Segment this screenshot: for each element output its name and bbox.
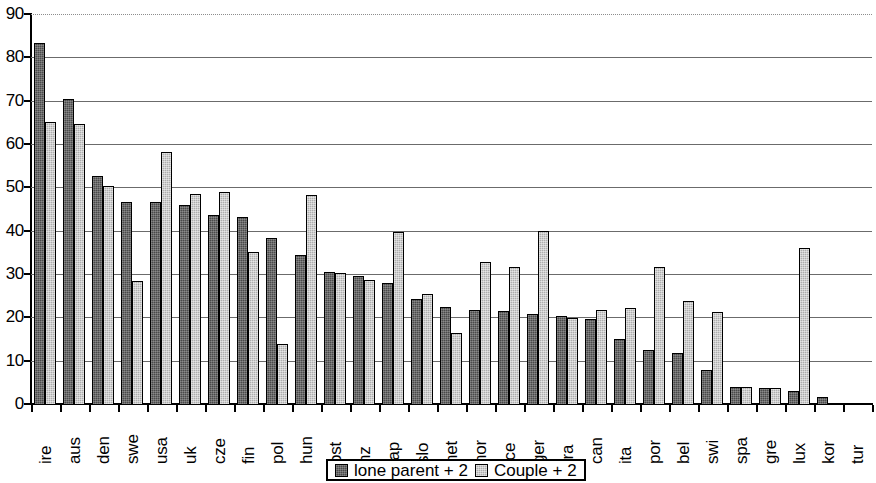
chart-legend: lone parent + 2 Couple + 2 [326,459,586,481]
bar-lone-parent [34,43,45,404]
bar-group [582,14,611,404]
y-tick-mark-80 [24,56,31,58]
bar-lone-parent [817,397,828,404]
x-tick-mark [292,405,294,412]
y-tick-label-10: 10 [0,352,24,369]
bar-couple [277,344,288,404]
bar-lone-parent [179,205,190,404]
x-tick-label-nz: nz [356,414,374,464]
x-tick-mark [263,405,265,412]
x-tick-mark [843,405,845,412]
bar-couple [654,267,665,404]
x-tick-mark [553,405,555,412]
plot-area [31,14,872,404]
x-tick-label-cze: cze [211,414,229,464]
x-tick-label-gre: gre [762,414,780,464]
x-tick-label-jap: jap [385,414,403,464]
bar-group [292,14,321,404]
bar-couple [799,248,810,404]
y-tick-mark-70 [24,100,31,102]
bar-lone-parent [353,276,364,404]
bar-couple [683,301,694,404]
x-tick-mark [640,405,642,412]
bar-group [205,14,234,404]
x-tick-mark [611,405,613,412]
bar-lone-parent [92,176,103,404]
x-tick-mark [118,405,120,412]
x-tick-label-fin: fin [240,414,258,464]
bar-group [495,14,524,404]
y-tick-mark-30 [24,273,31,275]
x-tick-label-spa: spa [733,414,751,464]
x-tick-mark [872,405,874,412]
x-tick-label-usa: usa [153,414,171,464]
legend-item-lone-parent: lone parent + 2 [335,462,468,479]
y-tick-mark-0 [24,403,31,405]
x-tick-label-ita: ita [617,414,635,464]
x-tick-label-slo: slo [414,414,432,464]
bar-group [698,14,727,404]
bar-lone-parent [643,350,654,404]
bar-group [785,14,814,404]
bar-lone-parent [498,311,509,404]
y-tick-label-0: 0 [0,395,24,412]
bar-couple [161,152,172,404]
y-tick-label-90: 90 [0,5,24,22]
x-tick-mark [321,405,323,412]
bar-group [263,14,292,404]
bar-lone-parent [585,319,596,404]
x-tick-mark [814,405,816,412]
bar-lone-parent [614,339,625,404]
bar-couple [625,308,636,404]
x-tick-mark [408,405,410,412]
bar-couple [567,318,578,404]
x-tick-mark [60,405,62,412]
bar-lone-parent [208,215,219,404]
bar-chart: 9080706050403020100 ireausdensweusaukcze… [0,0,876,483]
y-tick-mark-60 [24,143,31,145]
bar-lone-parent [788,391,799,404]
x-tick-label-lux: lux [791,414,809,464]
x-tick-mark [89,405,91,412]
bar-group [437,14,466,404]
bar-lone-parent [411,299,422,404]
x-tick-mark [31,405,33,412]
bar-couple [596,310,607,404]
x-tick-label-can: can [588,414,606,464]
x-tick-mark [524,405,526,412]
bar-group [234,14,263,404]
legend-swatch-icon [335,464,348,477]
bar-couple [132,281,143,405]
bar-lone-parent [469,310,480,404]
bar-lone-parent [150,202,161,404]
bars-layer [31,14,872,404]
bar-group [669,14,698,404]
bar-group [379,14,408,404]
legend-label: Couple + 2 [494,462,577,479]
x-tick-mark [205,405,207,412]
y-tick-label-40: 40 [0,222,24,239]
x-tick-label-ger: ger [530,414,548,464]
x-tick-mark [176,405,178,412]
bar-group [553,14,582,404]
x-tick-label-swi: swi [704,414,722,464]
x-tick-mark [698,405,700,412]
bar-group [350,14,379,404]
bar-couple [306,195,317,404]
bar-couple [741,387,752,404]
x-tick-label-tur: tur [849,414,867,464]
x-tick-label-aus: aus [66,414,84,464]
bar-group [60,14,89,404]
bar-group [147,14,176,404]
y-tick-mark-10 [24,360,31,362]
bar-couple [480,262,491,404]
bar-group [89,14,118,404]
bar-lone-parent [266,238,277,404]
x-tick-label-por: por [646,414,664,464]
bar-group [408,14,437,404]
bar-group [466,14,495,404]
bar-couple [712,312,723,404]
bar-couple [190,194,201,404]
x-tick-mark [379,405,381,412]
y-tick-label-70: 70 [0,92,24,109]
